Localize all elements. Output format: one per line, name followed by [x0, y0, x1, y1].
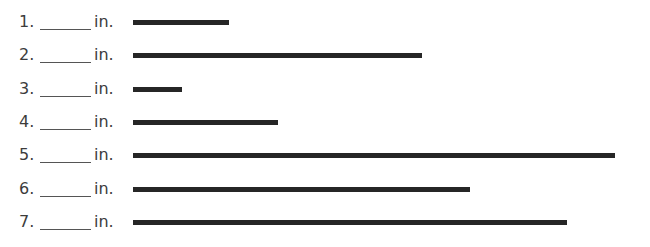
answer-blank[interactable] [40, 29, 91, 30]
answer-blank[interactable] [40, 96, 91, 97]
measure-line [133, 220, 567, 225]
answer-blank[interactable] [40, 129, 91, 130]
answer-blank[interactable] [40, 62, 91, 63]
item-row-4: 4. in. [0, 112, 650, 142]
measure-line [133, 153, 615, 158]
unit-label: in. [94, 112, 114, 132]
unit-label: in. [94, 145, 114, 165]
measure-line [133, 20, 229, 25]
item-number: 1. [19, 12, 34, 32]
item-row-3: 3. in. [0, 79, 650, 109]
item-number: 7. [19, 212, 34, 232]
item-number: 6. [19, 179, 34, 199]
answer-blank[interactable] [40, 229, 91, 230]
item-number: 4. [19, 112, 34, 132]
item-number: 3. [19, 79, 34, 99]
item-row-1: 1. in. [0, 12, 650, 42]
unit-label: in. [94, 45, 114, 65]
unit-label: in. [94, 212, 114, 232]
item-number: 2. [19, 45, 34, 65]
item-row-2: 2. in. [0, 45, 650, 75]
item-row-6: 6. in. [0, 179, 650, 209]
measure-line [133, 53, 422, 58]
unit-label: in. [94, 79, 114, 99]
measure-line [133, 87, 182, 92]
item-row-5: 5. in. [0, 145, 650, 175]
measure-line [133, 187, 470, 192]
measure-line [133, 120, 278, 125]
answer-blank[interactable] [40, 196, 91, 197]
answer-blank[interactable] [40, 162, 91, 163]
unit-label: in. [94, 179, 114, 199]
item-row-7: 7. in. [0, 212, 650, 242]
unit-label: in. [94, 12, 114, 32]
item-number: 5. [19, 145, 34, 165]
